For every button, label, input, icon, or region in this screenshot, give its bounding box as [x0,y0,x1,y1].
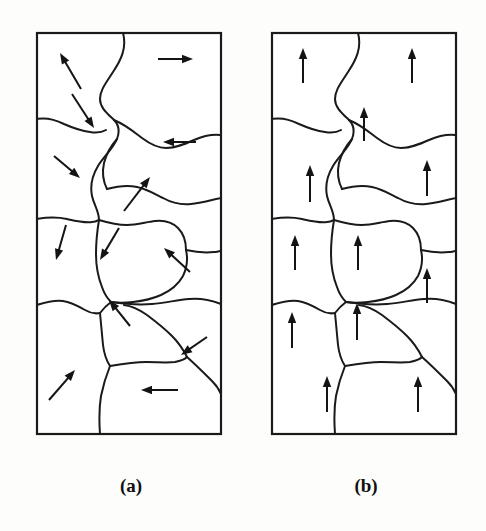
panel-caption-a: (a) [120,475,142,497]
panel-b [272,33,456,434]
figure-canvas: (a)(b) [0,0,486,531]
panel-a [37,33,221,434]
panel-frame-b [272,33,456,434]
panel-caption-b: (b) [354,475,377,497]
grain-structure-figure: (a)(b) [0,0,486,531]
